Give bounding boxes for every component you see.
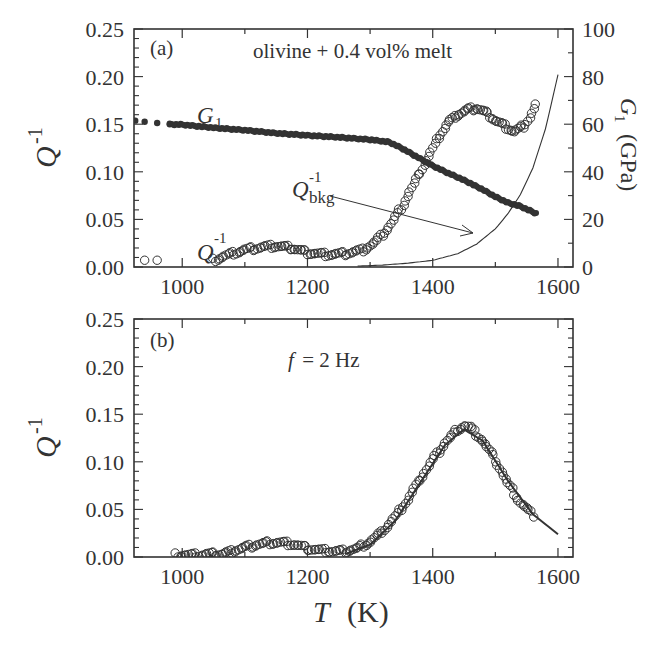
panel-b-annotation: f = 2 Hz (288, 348, 360, 372)
g1-point (533, 210, 539, 216)
y-tick-label: 0.10 (86, 450, 125, 475)
x-tick-label: 1200 (285, 274, 329, 299)
plot-area (171, 422, 558, 561)
x-tick-label: 1400 (411, 564, 455, 589)
svg-text:G: G (197, 103, 214, 128)
y-tick-label: 0.25 (86, 17, 125, 42)
svg-text:-1: -1 (24, 417, 46, 434)
y2-tick-label: 20 (582, 207, 604, 232)
svg-text:-1: -1 (214, 230, 227, 246)
panel-b-label: (b) (150, 328, 175, 352)
y2-tick-label: 60 (582, 112, 604, 137)
y-tick-label: 0.20 (86, 355, 125, 380)
panel-a-annotation: olivine + 0.4 vol% melt (253, 39, 452, 63)
q-inverse-series-label: Q -1 (197, 230, 227, 265)
y-tick-label: 0.10 (86, 160, 125, 185)
panel-a-label: (a) (150, 36, 173, 60)
plot-area (132, 75, 558, 266)
svg-text:T: T (313, 595, 332, 628)
svg-text:G: G (616, 98, 642, 115)
svg-text:f: f (288, 348, 297, 372)
y-tick-label: 0.15 (86, 112, 125, 137)
y2-tick-label: 100 (582, 17, 615, 42)
svg-text:1: 1 (215, 115, 223, 131)
series-line-fit (345, 429, 558, 554)
y2-tick-label: 40 (582, 160, 604, 185)
x-tick-label: 1400 (411, 274, 455, 299)
svg-text:Q: Q (197, 240, 214, 265)
svg-text:-1: -1 (24, 127, 46, 144)
y-tick-label: 0.05 (86, 497, 125, 522)
g1-series-label: G 1 (197, 103, 223, 131)
y2-tick-label: 80 (582, 65, 604, 90)
svg-text:Q: Q (292, 177, 309, 202)
svg-text:(GPa): (GPa) (616, 134, 642, 191)
svg-text:bkg: bkg (309, 188, 335, 207)
svg-text:Q: Q (29, 436, 62, 458)
svg-text:(K): (K) (347, 595, 389, 629)
q-inverse-point (140, 256, 148, 264)
x-tick-label: 1200 (285, 564, 329, 589)
plot-frame (134, 29, 573, 267)
q-bkg-series-label: Q -1 bkg (292, 169, 335, 207)
g1-point (132, 117, 138, 123)
x-tick-label: 1600 (536, 274, 580, 299)
svg-text:Q: Q (29, 146, 62, 168)
y-tick-label: 0.25 (86, 307, 125, 332)
x-tick-label: 1600 (536, 564, 580, 589)
x-tick-label: 1000 (160, 564, 204, 589)
y-tick-label: 0.05 (86, 207, 125, 232)
y-axis-title-b: Q -1 (24, 417, 62, 458)
g1-point (154, 120, 160, 126)
svg-text:-1: -1 (309, 169, 322, 185)
x-tick-label: 1000 (160, 274, 204, 299)
x-axis-title: T (K) (313, 595, 389, 629)
q-inverse-point (153, 256, 161, 264)
y-tick-label: 0.00 (86, 255, 125, 280)
figure: 10001200140016000.000.050.100.150.200.25… (0, 0, 658, 650)
y-tick-label: 0.15 (86, 402, 125, 427)
q-inverse-point (531, 100, 539, 108)
svg-text:1: 1 (612, 115, 628, 123)
svg-text:= 2 Hz: = 2 Hz (297, 348, 360, 372)
y-tick-label: 0.20 (86, 65, 125, 90)
y-tick-label: 0.00 (86, 545, 125, 570)
y2-tick-label: 0 (582, 255, 593, 280)
y2-axis-title: G 1 (GPa) (612, 98, 642, 191)
g1-point (141, 119, 147, 125)
y-axis-title-a: Q -1 (24, 127, 62, 168)
